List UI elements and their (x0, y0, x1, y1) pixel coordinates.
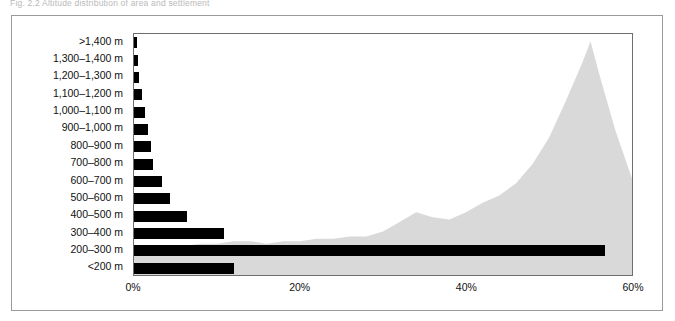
bar (134, 245, 605, 256)
y-axis-tick-label: 600–700 m (70, 175, 123, 186)
y-axis-tick-label: >1,400 m (79, 36, 123, 47)
bar (134, 107, 145, 118)
y-axis-tick-label: 300–400 m (70, 227, 123, 238)
bar (134, 55, 138, 66)
x-axis-tick-label: 0% (125, 281, 140, 293)
bar (134, 193, 170, 204)
bar (134, 72, 139, 83)
bar (134, 37, 137, 48)
figure-caption: Fig. 2.2 Altitude distribution of area a… (10, 0, 340, 10)
x-axis-tick-label: 60% (622, 281, 643, 293)
y-axis-tick-label: 700–800 m (70, 157, 123, 168)
bar (134, 89, 142, 100)
chart-figure: Fig. 2.2 Altitude distribution of area a… (0, 0, 675, 321)
y-axis-tick-label: 500–600 m (70, 192, 123, 203)
bar (134, 124, 148, 135)
plot-inner (134, 34, 632, 275)
bar (134, 141, 151, 152)
bar-series (134, 34, 632, 275)
y-axis-tick-label: 1,300–1,400 m (53, 53, 123, 64)
y-axis-tick-label: 200–300 m (70, 244, 123, 255)
x-axis-tick-label: 40% (456, 281, 477, 293)
bar (134, 176, 162, 187)
bar (134, 263, 234, 274)
y-axis-tick-label: 1,200–1,300 m (53, 70, 123, 81)
y-axis-tick-label: 1,100–1,200 m (53, 88, 123, 99)
x-axis-tick-label: 20% (289, 281, 310, 293)
bar (134, 228, 224, 239)
x-axis-labels: 0%20%40%60% (0, 281, 675, 297)
bar (134, 159, 153, 170)
y-axis-tick-label: 900–1,000 m (62, 122, 123, 133)
y-axis-tick-label: 1,000–1,100 m (53, 105, 123, 116)
y-axis-tick-label: <200 m (88, 261, 123, 272)
y-axis-tick-label: 800–900 m (70, 140, 123, 151)
bar (134, 211, 187, 222)
y-axis-tick-label: 400–500 m (70, 209, 123, 220)
y-axis-labels: >1,400 m1,300–1,400 m1,200–1,300 m1,100–… (11, 33, 129, 276)
plot-area (133, 33, 633, 276)
